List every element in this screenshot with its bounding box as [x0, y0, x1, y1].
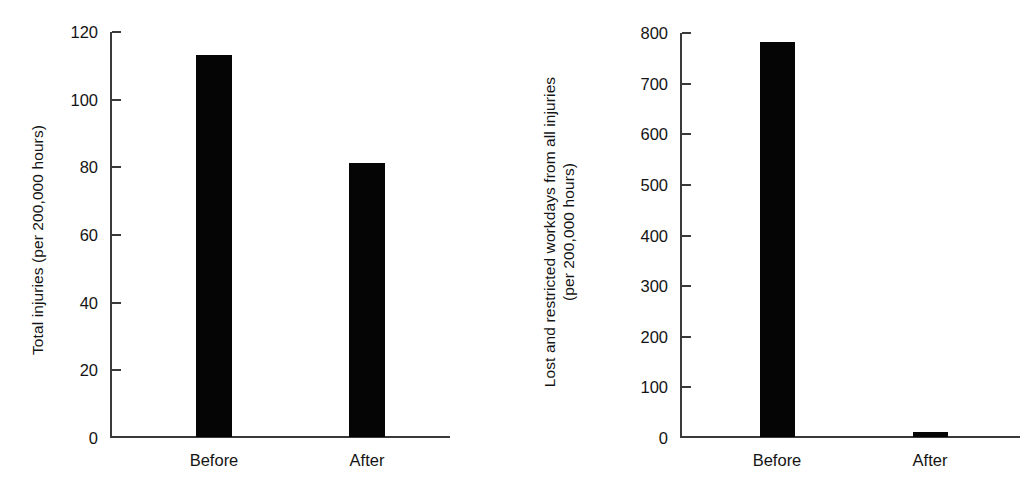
y-axis-tick-label: 700	[608, 76, 668, 93]
y-axis-tick	[682, 184, 691, 186]
y-axis-title-right-line-1: Lost and restricted workdays from all in…	[539, 15, 558, 450]
figure-two-bar-charts: Total injuries (per 200,000 hours) 02040…	[0, 0, 1028, 493]
y-axis-tick	[682, 32, 691, 34]
y-axis-tick	[112, 369, 121, 371]
y-axis-tick-label: 500	[608, 177, 668, 194]
y-axis-tick	[682, 386, 691, 388]
y-axis-tick-label: 300	[608, 278, 668, 295]
plot-area-left: 020406080100120	[110, 32, 450, 438]
y-axis-tick	[112, 302, 121, 304]
y-axis-tick-label: 120	[38, 24, 98, 41]
y-axis-tick-label: 100	[608, 379, 668, 396]
y-axis-tick	[682, 133, 691, 135]
x-axis-category-label: After	[860, 452, 1000, 469]
x-axis-line-left	[110, 436, 450, 438]
plot-area-right: 0100200300400500600700800	[680, 33, 1020, 438]
x-axis-category-label: Before	[144, 452, 284, 469]
y-axis-tick	[682, 235, 691, 237]
y-axis-title-right-line-2: (per 200,000 hours)	[558, 15, 577, 450]
y-axis-tick	[112, 234, 121, 236]
y-axis-tick-label: 200	[608, 329, 668, 346]
y-axis-tick-label: 100	[38, 92, 98, 109]
y-axis-tick	[112, 99, 121, 101]
x-axis-category-label: After	[297, 452, 437, 469]
y-axis-tick	[682, 336, 691, 338]
bar-after	[349, 163, 385, 437]
y-axis-tick-label: 0	[608, 430, 668, 447]
x-axis-line-right	[680, 436, 1020, 438]
y-axis-tick-label: 600	[608, 126, 668, 143]
y-axis-title-right: Lost and restricted workdays from all in…	[539, 15, 583, 450]
chart-panel-lost-workdays: Lost and restricted workdays from all in…	[514, 0, 1028, 493]
chart-panel-total-injuries: Total injuries (per 200,000 hours) 02040…	[0, 0, 514, 493]
y-axis-tick	[682, 285, 691, 287]
y-axis-tick-label: 60	[38, 227, 98, 244]
x-axis-category-label: Before	[707, 452, 847, 469]
y-axis-tick-label: 0	[38, 430, 98, 447]
y-axis-tick-label: 400	[608, 228, 668, 245]
y-axis-tick	[112, 31, 121, 33]
y-axis-tick-label: 800	[608, 25, 668, 42]
bar-before	[196, 55, 232, 437]
y-axis-tick-label: 40	[38, 295, 98, 312]
y-axis-tick	[682, 83, 691, 85]
y-axis-tick-label: 20	[38, 362, 98, 379]
bar-after	[913, 432, 948, 437]
y-axis-tick	[112, 166, 121, 168]
bar-before	[760, 42, 795, 437]
y-axis-tick-label: 80	[38, 159, 98, 176]
